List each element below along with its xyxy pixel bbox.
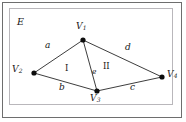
edge-label-b: b <box>59 83 65 92</box>
vertex-label-v2-text: V <box>12 64 19 74</box>
region-label-E: E <box>17 17 24 27</box>
vertex-label-v4-subscript: 4 <box>174 72 178 79</box>
vertex-label-v4: V4 <box>167 70 178 79</box>
vertex-v4-dot <box>159 74 164 79</box>
vertex-label-v3: V3 <box>90 94 101 103</box>
edge-e-line <box>83 40 97 91</box>
vertex-label-v2-subscript: 2 <box>19 67 23 74</box>
vertex-label-v2: V2 <box>12 65 23 74</box>
edge-label-c: c <box>130 83 135 92</box>
vertex-v2-dot <box>31 70 36 75</box>
graph-drawing <box>0 0 186 122</box>
vertex-label-v3-text: V <box>90 93 97 103</box>
vertex-label-v1: V1 <box>76 22 87 31</box>
edge-a-line <box>34 40 83 73</box>
vertex-label-v3-subscript: 3 <box>97 96 101 103</box>
figure-root: E V1 V2 V3 V4 a b c d e I II <box>0 0 186 122</box>
vertex-label-v1-subscript: 1 <box>83 24 87 31</box>
face-label-1: I <box>65 64 68 73</box>
vertex-v1-dot <box>80 37 85 42</box>
vertex-label-v1-text: V <box>76 21 83 31</box>
edge-label-d: d <box>125 43 131 52</box>
edge-b-line <box>34 73 97 91</box>
edge-label-a: a <box>45 41 50 50</box>
face-label-2: II <box>103 62 110 71</box>
edge-label-e: e <box>92 68 96 76</box>
vertex-label-v4-text: V <box>167 69 174 79</box>
